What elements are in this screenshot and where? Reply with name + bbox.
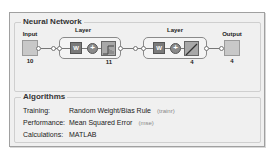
calculations-value: MATLAB (69, 130, 97, 139)
layer1-sum-icon: + (87, 43, 98, 54)
layer2-sum-icon: + (170, 43, 181, 54)
hardlim-icon[interactable] (101, 41, 116, 56)
layer2-label: Layer (155, 27, 195, 33)
performance-key: Performance: (23, 118, 69, 127)
output-label: Output (219, 31, 245, 37)
layer1-label: Layer (63, 27, 103, 33)
connector-node (133, 46, 138, 51)
training-key: Training: (23, 106, 69, 115)
training-value: Random Weight/Bias Rule (69, 106, 151, 115)
layer2-weight-box[interactable]: W (153, 42, 165, 54)
input-label: Input (21, 31, 39, 37)
neural-network-title: Neural Network (21, 17, 84, 26)
output-size: 4 (224, 58, 240, 64)
algorithm-row-training: Training:Random Weight/Bias Rule(trainr) (23, 106, 175, 115)
nn-view-panel: Neural Network Input 10 Layer W + 11 Lay… (9, 12, 265, 147)
connector-node (51, 46, 56, 51)
neural-network-group: Neural Network Input 10 Layer W + 11 Lay… (14, 22, 261, 92)
algorithms-group: Algorithms Training:Random Weight/Bias R… (14, 97, 261, 143)
training-fn: (trainr) (157, 107, 175, 116)
algorithm-row-performance: Performance:Mean Squared Error(mse) (23, 118, 154, 127)
performance-value: Mean Squared Error (69, 118, 132, 127)
algorithms-title: Algorithms (21, 92, 67, 101)
calculations-key: Calculations: (23, 130, 69, 139)
purelin-icon[interactable] (184, 41, 199, 56)
input-size: 10 (22, 58, 38, 64)
layer1-weight-box[interactable]: W (70, 42, 82, 54)
layer2-size: 4 (184, 59, 200, 65)
algorithm-row-calculations: Calculations:MATLAB (23, 130, 103, 139)
layer1-size: 11 (101, 59, 117, 65)
output-box[interactable] (224, 40, 240, 56)
performance-fn: (mse) (138, 119, 153, 128)
